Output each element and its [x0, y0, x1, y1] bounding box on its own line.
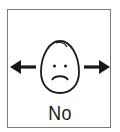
arrow-left-icon [10, 60, 36, 74]
sad-face-icon [41, 41, 79, 93]
arrow-right-icon [84, 60, 110, 74]
card-label: No [9, 101, 111, 125]
